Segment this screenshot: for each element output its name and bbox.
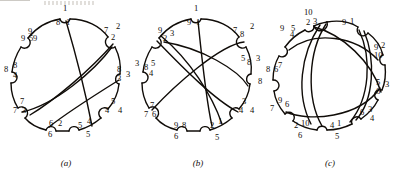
label-c-6-right: 1 (337, 118, 341, 128)
label-c-2-left: 9 (342, 17, 346, 27)
label-b-2-left: 7 (233, 25, 237, 35)
label-c-4-sub: 6 (376, 86, 380, 96)
label-a-4-left: 5 (111, 96, 115, 106)
label-b-top-index: 1 (194, 3, 198, 13)
label-b-7-right: 6 (152, 109, 156, 119)
label-a-6-right: 2 (58, 118, 62, 128)
label-a-8-outer: 8 (4, 64, 8, 74)
caption-a: (a) (0, 159, 132, 168)
label-c-3-sub: 10 (374, 50, 383, 60)
label-c-8-pre: 7 (270, 103, 274, 113)
label-a-top-index: 1 (63, 3, 67, 13)
label-c-5-sub: 4 (370, 113, 375, 123)
label-b-6-left: 9 (174, 120, 178, 130)
label-b-3-left: 5 (241, 53, 245, 63)
panel-c: 10 2 3 9 1 9 2 10 5 3 6 6 3 4 4 1 5 2 10… (264, 0, 396, 171)
label-a-3-sub: 3 (117, 73, 121, 83)
panel-a: 1 8 1 7 2 2 8 3 3 5 4 4 5 4 5 6 2 6 7 7 (0, 0, 132, 171)
label-b-6-right: 8 (182, 120, 186, 130)
label-b-5-left: 2 (210, 120, 214, 130)
label-a-9-outer: 9 (21, 33, 25, 43)
label-b-9-sub: 3 (170, 28, 174, 38)
figure-chord-diagrams: 1 8 1 7 2 2 8 3 3 5 4 4 5 4 5 6 2 6 7 7 (0, 0, 396, 171)
panel-b: 1 9 1 7 8 2 5 8 3 8 3 4 4 2 1 5 9 8 6 7 (130, 0, 266, 171)
label-b-7-outer: 7 (144, 109, 148, 119)
label-c-1-left: 2 (306, 17, 310, 27)
caption-c: (c) (264, 159, 396, 168)
label-c-9-pre: 8 (266, 64, 270, 74)
label-a-4-outer: 4 (118, 105, 123, 115)
label-c-4-right: 3 (385, 79, 389, 89)
label-c-1-right: 3 (313, 16, 317, 26)
label-c-8-left: 9 (278, 95, 282, 105)
label-b-5-right: 1 (218, 116, 222, 126)
label-a-2-right: 2 (111, 32, 115, 42)
label-c-10-top: 10 (304, 7, 313, 17)
label-b-2-outer: 2 (250, 21, 254, 31)
label-c-6-left: 4 (330, 120, 335, 130)
panel-a-drawing: 1 8 1 7 2 2 8 3 3 5 4 4 5 4 5 6 2 6 7 7 (0, 0, 132, 160)
label-a-7-right: 3 (22, 105, 26, 115)
label-b-1-left: 9 (187, 17, 191, 27)
label-a-2-outer: 2 (116, 21, 120, 31)
label-b-8-sub: 4 (149, 68, 154, 78)
label-c-5-left: 6 (360, 107, 364, 117)
label-a-2-left: 7 (104, 25, 108, 35)
label-c-2-right: 1 (350, 16, 354, 26)
label-b-9-left: 9 (158, 25, 162, 35)
label-b-3-outer: 3 (256, 53, 260, 63)
label-a-9-right: 9 (33, 33, 37, 43)
label-c-7-right: 10 (301, 118, 310, 128)
label-b-6-outer: 6 (174, 131, 178, 141)
label-c-10-left: 5 (291, 23, 295, 33)
label-b-8-left: 8 (144, 62, 148, 72)
label-a-6-outer: 6 (48, 129, 52, 139)
label-b-8-right: 5 (151, 58, 155, 68)
label-b-1-right: 1 (196, 17, 200, 27)
panel-b-drawing: 1 9 1 7 8 2 5 8 3 8 3 4 4 2 1 5 9 8 6 7 (130, 0, 266, 160)
caption-b: (b) (130, 159, 266, 168)
label-b-9-right: 2 (163, 33, 167, 43)
label-c-10-pre: 9 (280, 23, 284, 33)
label-b-4-outer: 4 (250, 105, 255, 115)
label-b-4-sub: 4 (239, 105, 244, 115)
label-a-6-left: 6 (49, 118, 53, 128)
label-c-6-sub: 5 (335, 131, 339, 141)
label-a-1-right: 1 (66, 17, 70, 27)
label-b-2-right: 8 (240, 29, 244, 39)
label-a-7-outer: 7 (13, 105, 17, 115)
label-b-5-outer: 5 (215, 132, 219, 142)
label-a-5-outer: 5 (86, 129, 90, 139)
label-b-extra-3: 3 (135, 58, 139, 68)
panel-c-drawing: 10 2 3 9 1 9 2 10 5 3 6 6 3 4 4 1 5 2 10… (264, 0, 396, 160)
label-b-3-right: 8 (247, 57, 251, 67)
label-c-7-left: 2 (294, 120, 298, 130)
label-b-extra-8: 8 (258, 76, 262, 86)
label-a-8-top: 8 (13, 60, 17, 70)
label-c-3-right: 2 (381, 40, 385, 50)
label-a-9-sub: 5 (29, 33, 33, 43)
label-c-7-sub: 6 (298, 130, 302, 140)
label-c-8-right: 6 (285, 99, 289, 109)
label-a-5-left: 5 (78, 120, 82, 130)
label-a-1-left: 8 (56, 17, 60, 27)
label-c-9-left: 7 (278, 60, 282, 70)
